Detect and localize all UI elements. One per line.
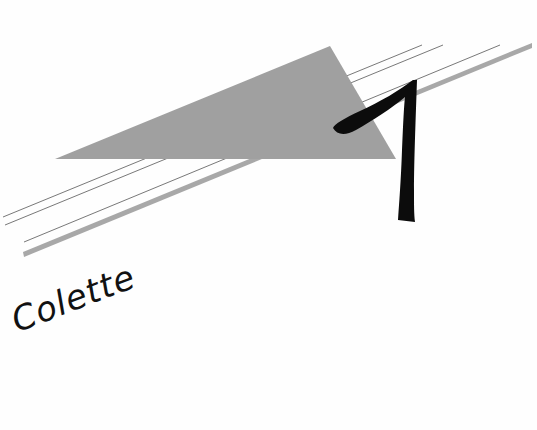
gray-triangle — [55, 46, 396, 159]
chapter-title-page: Colette — [0, 0, 537, 430]
chapter-decoration-graphic — [0, 0, 537, 430]
